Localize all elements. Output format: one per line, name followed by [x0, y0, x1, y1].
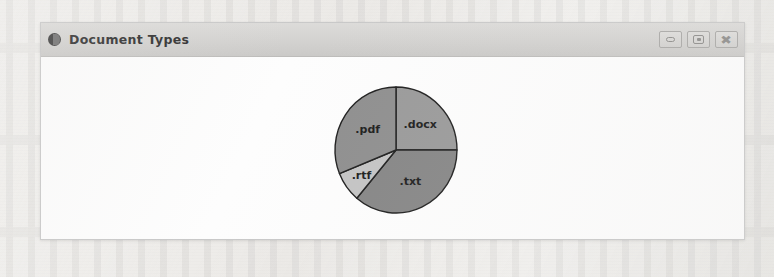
close-icon: ✖	[721, 34, 733, 46]
pie-slice-label-txt: .txt	[399, 175, 421, 188]
window-body: .docx.txt.rtf.pdf	[41, 57, 744, 239]
application-window: Document Types ✖ .docx.txt.rtf.pdf	[40, 22, 745, 240]
minimize-button[interactable]	[659, 31, 682, 48]
pie-slice-label-pdf: .pdf	[355, 123, 380, 136]
minimize-icon	[666, 37, 675, 42]
title-bar[interactable]: Document Types ✖	[41, 23, 744, 57]
maximize-icon	[693, 35, 704, 44]
pie-slice-label-rtf: .rtf	[351, 169, 371, 182]
window-controls: ✖	[659, 31, 738, 48]
pie-chart[interactable]: .docx.txt.rtf.pdf	[332, 85, 460, 215]
maximize-button[interactable]	[687, 31, 710, 48]
globe-icon	[48, 33, 61, 46]
pie-slice-label-docx: .docx	[403, 118, 436, 131]
close-button[interactable]: ✖	[715, 31, 738, 48]
window-title: Document Types	[69, 32, 189, 47]
chart-area: .docx.txt.rtf.pdf	[41, 57, 744, 239]
pie-slice-group	[334, 87, 456, 213]
globe-icon-highlight	[53, 34, 60, 45]
